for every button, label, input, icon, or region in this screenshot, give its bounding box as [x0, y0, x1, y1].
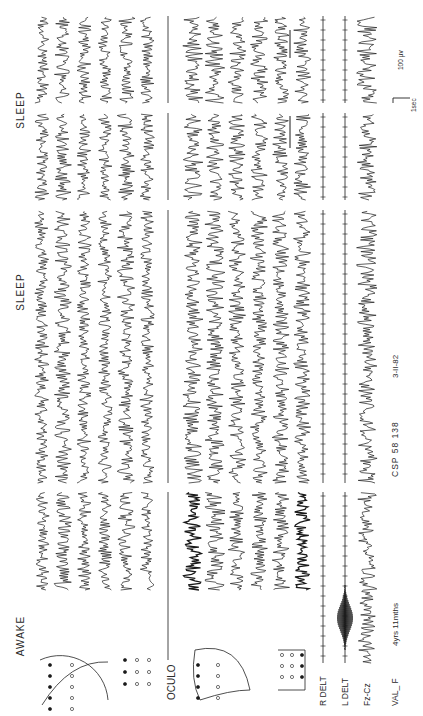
eeg-channel-1-trace [35, 211, 49, 483]
eeg-channel-9-trace [229, 114, 246, 200]
eeg-channel-11-trace [274, 17, 289, 103]
calibration-mark [393, 98, 410, 103]
eeg-channel-4-trace [98, 493, 111, 591]
eeg-channel-4-trace [99, 114, 112, 200]
eeg-channel-10-trace [251, 114, 268, 200]
fz-cz-channel-trace [357, 17, 377, 103]
channel-label-r-delt: R DELT [318, 676, 328, 706]
eeg-channel-7-trace [184, 493, 202, 591]
state-label-awake: AWAKE [15, 616, 26, 656]
eeg-channel-9-trace [228, 493, 244, 591]
eeg-channel-9-trace [228, 17, 246, 103]
electrode-dot [280, 675, 283, 678]
eeg-channel-3-trace [78, 493, 92, 591]
channel-label-oculo: OCULO [166, 664, 177, 700]
electrode-dot [70, 663, 73, 666]
eeg-channel-4-trace [98, 211, 112, 483]
electrode-dot [216, 696, 219, 699]
electrode-dot [216, 685, 219, 688]
electrode-dot [300, 653, 303, 656]
eeg-channel-7-trace [183, 17, 203, 103]
eeg-channel-5-trace [119, 17, 135, 103]
electrode-dot [196, 674, 199, 677]
electrode-grid-diagram-icon [278, 650, 305, 690]
electrode-dot [300, 675, 303, 678]
record-id: CSP 58 138 [390, 421, 400, 477]
electrode-dot [290, 653, 293, 656]
eeg-channel-6-trace [140, 17, 154, 103]
electrode-dot [216, 674, 219, 677]
eeg-channel-3-trace [77, 211, 91, 483]
l-delt-emg-burst [337, 585, 353, 650]
electrode-dot [196, 696, 199, 699]
eeg-channel-6-trace [140, 211, 154, 483]
electrode-dot [70, 685, 73, 688]
eeg-channel-1-trace [35, 114, 49, 200]
electrode-dot [123, 670, 126, 673]
eeg-channel-11-trace [273, 114, 289, 200]
patient-name: VAL_ F [390, 678, 400, 706]
eeg-channel-5-trace [117, 211, 135, 483]
electrode-dot [196, 663, 199, 666]
eeg-channel-2-trace [54, 493, 71, 591]
electrode-dot [48, 707, 51, 710]
channel-label-fz-cz: Fz-Cz [362, 683, 372, 706]
eeg-channel-8-trace [205, 211, 225, 483]
eeg-channel-1-trace [35, 17, 49, 103]
patient-age: 4yrs 11mths [391, 603, 400, 646]
electrode-dot [280, 653, 283, 656]
eeg-channel-3-trace [77, 17, 91, 103]
eeg-channel-10-trace [250, 211, 267, 483]
electrode-dot [147, 682, 150, 685]
electrode-dot [147, 670, 150, 673]
electrode-head-diagram-icon [40, 656, 108, 711]
fz-cz-channel-trace [357, 114, 377, 200]
electrode-dot [48, 685, 51, 688]
eeg-figure: AWAKE SLEEP SLEEP OCULO R DELT L DELT Fz… [0, 0, 423, 716]
eeg-channel-7-trace [183, 114, 203, 200]
electrode-dot [196, 685, 199, 688]
eeg-traces [35, 17, 377, 663]
electrode-dot [290, 664, 293, 667]
electrode-dot [70, 707, 73, 710]
record-date: 3-II-82 [391, 354, 400, 378]
eeg-channel-10-trace [251, 17, 268, 103]
eeg-channel-5-trace [118, 493, 135, 591]
electrode-dot [216, 663, 219, 666]
eeg-channel-6-trace [140, 114, 154, 200]
eeg-channel-9-trace [228, 211, 246, 483]
electrode-dot [48, 674, 51, 677]
eeg-channel-12-trace [294, 17, 311, 103]
electrode-dot [135, 682, 138, 685]
electrode-dot [123, 682, 126, 685]
electrode-dot [123, 658, 126, 661]
state-label-sleep-1: SLEEP [15, 273, 26, 310]
electrode-dot [135, 658, 138, 661]
electrode-dot [135, 670, 138, 673]
electrode-grid-diagram-icon [123, 658, 150, 685]
electrode-dot [48, 696, 51, 699]
eeg-channel-4-trace [98, 17, 111, 103]
calibration-amplitude-label: 100 µv [397, 50, 405, 70]
eeg-channel-8-trace [205, 493, 225, 591]
eeg-channel-11-trace [272, 493, 289, 591]
electrode-dot [300, 664, 303, 667]
eeg-channel-1-trace [36, 493, 49, 591]
eeg-channel-5-trace [117, 114, 134, 200]
electrode-dot [290, 675, 293, 678]
eeg-channel-3-trace [77, 114, 91, 200]
eeg-channel-8-trace [205, 17, 225, 103]
electrode-dot [70, 696, 73, 699]
eeg-channel-7-trace [183, 211, 203, 483]
eeg-channel-12-trace [294, 211, 311, 483]
fz-cz-channel-trace [358, 493, 377, 663]
eeg-channel-2-trace [54, 211, 71, 483]
fz-cz-channel-trace [357, 211, 378, 483]
eeg-channel-8-trace [207, 114, 224, 200]
calibration-bar [393, 98, 410, 103]
eeg-channel-2-trace [54, 17, 69, 103]
electrode-dot [70, 674, 73, 677]
state-label-sleep-2: SLEEP [15, 91, 26, 128]
eeg-channel-12-trace [295, 493, 310, 591]
calibration-time-label: 1sec [410, 98, 417, 112]
